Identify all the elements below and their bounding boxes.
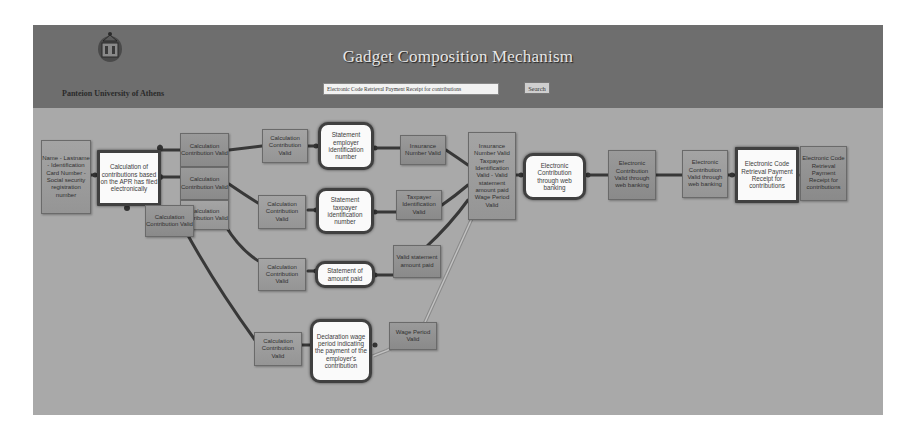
gadget-electronic-contribution[interactable]: Electronic Contribution through web bank… xyxy=(523,153,586,200)
calc-valid-box[interactable]: Calculation Contribution Valid xyxy=(258,258,306,291)
gadget-statement-taxpayer[interactable]: Statement taxpayer identification number xyxy=(316,188,374,234)
calc-valid-box[interactable]: Calculation Contribution Valid xyxy=(180,167,229,200)
gadget-statement-employer[interactable]: Statement employer identification number xyxy=(318,122,374,170)
calc-valid-box[interactable]: Calculation Contribution Valid xyxy=(258,195,306,229)
gadget-calculation-contributions[interactable]: Calculation of contributions based on th… xyxy=(97,150,161,206)
web-valid-box[interactable]: Electronic Contribution Valid through we… xyxy=(608,150,656,200)
gadget-electronic-code[interactable]: Electronic Code Retrieval Payment Receip… xyxy=(735,147,799,203)
taxpayer-valid-box[interactable]: Taxpayer Identification Valid xyxy=(396,190,442,220)
personal-data-input[interactable]: Name - Lastname - Identification Card Nu… xyxy=(41,140,91,214)
wage-valid-box[interactable]: Wage Period Valid xyxy=(389,322,437,350)
output-valid-box[interactable]: Electronic Code Retrieval Payment Receip… xyxy=(800,146,847,201)
combined-valid-box[interactable]: Insurance Number Valid Taxpayer Identifi… xyxy=(468,132,516,220)
calc-valid-box[interactable]: Calculation Contribution Valid xyxy=(254,332,302,366)
amount-valid-box[interactable]: Valid statement amount paid xyxy=(393,245,441,278)
gadget-statement-amount[interactable]: Statement of amount paid xyxy=(315,261,375,288)
calc-valid-box[interactable]: Calculation Contribution Valid xyxy=(145,205,194,237)
insurance-valid-box[interactable]: Insurance Number Valid xyxy=(400,135,446,165)
gadget-declaration-wage[interactable]: Declaration wage period indicating the p… xyxy=(310,319,372,383)
calc-valid-box[interactable]: Calculation Contribution Valid xyxy=(262,129,308,163)
connection-lines xyxy=(0,0,914,437)
web-valid-box[interactable]: Electronic Contribution Valid through we… xyxy=(682,150,728,198)
calc-valid-box[interactable]: Calculation Contribution Valid xyxy=(180,133,229,167)
